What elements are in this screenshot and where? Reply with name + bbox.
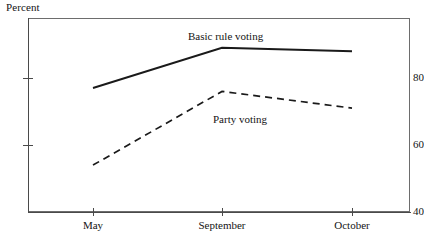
chart-figure: Percent 80 60 40 May September October B… [0,0,424,241]
y-axis-title: Percent [6,1,40,14]
x-tick-mark-october [352,208,353,216]
x-tick-label-may: May [83,219,103,232]
x-axis-line [28,212,411,213]
series-label-basic-rule-voting: Basic rule voting [188,30,263,43]
x-tick-label-september: September [198,219,245,232]
series-label-party-voting: Party voting [213,113,267,126]
x-tick-mark-september [222,208,223,216]
x-tick-label-october: October [334,219,369,232]
y-tick-mark-60 [23,145,33,146]
y-axis-line [28,18,29,213]
y-tick-label-60: 60 [402,139,424,150]
y-tick-label-40: 40 [402,206,424,217]
x-tick-mark-may [93,208,94,216]
y-tick-mark-80 [23,78,33,79]
y-tick-label-80: 80 [402,72,424,83]
